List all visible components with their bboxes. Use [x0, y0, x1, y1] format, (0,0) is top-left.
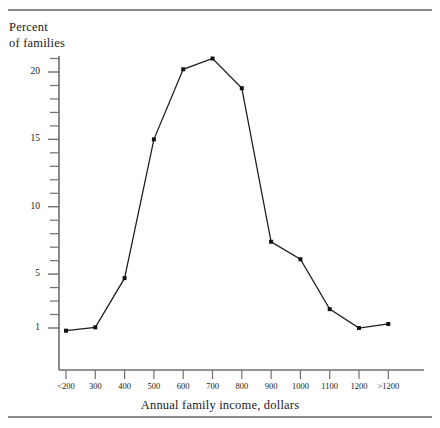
- data-line: [66, 59, 388, 331]
- data-point-marker: [152, 137, 156, 141]
- y-tick-label: 20: [14, 66, 40, 76]
- y-tick-label: 15: [14, 133, 40, 143]
- data-point-marker: [123, 276, 127, 280]
- data-point-marker: [64, 329, 68, 333]
- data-point-marker: [211, 57, 215, 61]
- data-point-marker: [328, 307, 332, 311]
- data-point-marker: [269, 240, 273, 244]
- x-axis-ticks: [66, 370, 388, 379]
- data-point-marker: [298, 257, 302, 261]
- data-point-marker: [240, 86, 244, 90]
- axis-lines: [59, 56, 424, 370]
- data-markers: [64, 57, 390, 333]
- data-point-marker: [357, 326, 361, 330]
- plot-area: [0, 0, 440, 428]
- x-tick-label: >1200: [367, 381, 409, 391]
- data-point-marker: [386, 322, 390, 326]
- data-point-marker: [93, 325, 97, 329]
- x-axis-title: Annual family income, dollars: [0, 398, 440, 413]
- y-tick-label: 1: [14, 322, 40, 332]
- figure-chart: Percent of families 15101520 <2003004005…: [0, 0, 440, 428]
- data-point-marker: [181, 67, 185, 71]
- y-tick-label: 10: [14, 201, 40, 211]
- y-axis-ticks: [48, 59, 59, 328]
- y-tick-label: 5: [14, 268, 40, 278]
